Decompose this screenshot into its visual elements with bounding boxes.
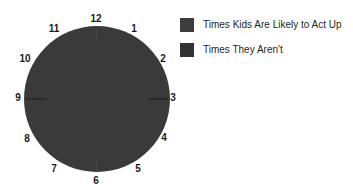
hour-tick-3 xyxy=(148,98,168,100)
hour-label-8: 8 xyxy=(24,134,30,144)
clock-pie-chart-figure: 12 1 2 3 4 5 6 7 8 9 10 11 Times Kids Ar… xyxy=(0,0,353,192)
hour-label-5: 5 xyxy=(135,164,141,174)
hour-label-12: 12 xyxy=(90,14,101,24)
legend-label-act-up: Times Kids Are Likely to Act Up xyxy=(203,20,342,30)
hour-tick-9 xyxy=(26,98,46,100)
legend-swatch-icon-act-up xyxy=(180,18,194,32)
hour-label-7: 7 xyxy=(51,164,57,174)
hour-label-6: 6 xyxy=(93,176,99,186)
slice-boundary-tick-top xyxy=(96,26,97,42)
legend-item-arent[interactable]: Times They Aren't xyxy=(180,39,353,61)
hour-label-3: 3 xyxy=(170,93,176,103)
hour-label-1: 1 xyxy=(131,24,137,34)
legend-label-arent: Times They Aren't xyxy=(203,45,283,55)
hour-label-10: 10 xyxy=(19,54,30,64)
clock-plot-area: 12 1 2 3 4 5 6 7 8 9 10 11 xyxy=(0,0,180,192)
chart-legend: Times Kids Are Likely to Act Up Times Th… xyxy=(180,14,353,64)
legend-item-act-up[interactable]: Times Kids Are Likely to Act Up xyxy=(180,14,353,36)
legend-swatch-icon-arent xyxy=(180,43,194,57)
hour-label-4: 4 xyxy=(161,133,167,143)
slice-boundary-tick-bottom xyxy=(96,156,97,172)
hour-label-9: 9 xyxy=(15,93,21,103)
hour-label-2: 2 xyxy=(160,54,166,64)
hour-label-11: 11 xyxy=(49,24,60,34)
